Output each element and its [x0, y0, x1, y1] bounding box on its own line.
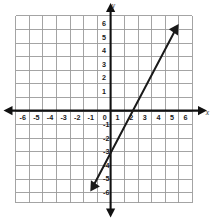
y-tick-label: -6	[103, 188, 109, 197]
x-tick-label: -3	[60, 113, 66, 122]
x-tick-label: -1	[88, 113, 94, 122]
y-tick-label: 5	[102, 33, 106, 42]
x-axis-label: x	[205, 108, 210, 117]
x-tick-label: 5	[170, 113, 174, 122]
y-tick-label: -1	[103, 120, 109, 129]
y-tick-label: 1	[102, 87, 106, 96]
y-axis-label: y	[111, 1, 116, 10]
x-tick-label: -6	[20, 113, 26, 122]
x-tick-label: -2	[74, 113, 80, 122]
y-tick-label: -2	[103, 134, 109, 143]
y-tick-label: 4	[102, 46, 106, 55]
y-tick-label: 6	[102, 19, 106, 28]
x-tick-label: -4	[47, 113, 53, 122]
graph-canvas: -6 -5 -4 -3 -2 -1 0 1 2 3 4 5 6 6 5 4 3 …	[0, 0, 214, 220]
x-tick-label: 1	[116, 113, 120, 122]
x-tick-label: -5	[33, 113, 39, 122]
y-tick-label: -3	[103, 147, 109, 156]
y-tick-label: 2	[102, 73, 106, 82]
x-tick-label: 6	[184, 113, 188, 122]
y-tick-label: 3	[102, 60, 106, 69]
coordinate-plane-figure: -6 -5 -4 -3 -2 -1 0 1 2 3 4 5 6 6 5 4 3 …	[0, 0, 214, 220]
x-tick-label: 3	[143, 113, 147, 122]
y-tick-label: -5	[103, 174, 109, 183]
x-tick-label: 4	[156, 113, 160, 122]
